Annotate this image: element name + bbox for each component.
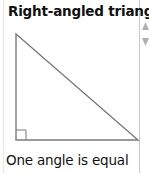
triangle-down-icon bbox=[142, 38, 149, 46]
shape-card: Right-angled triangle One angle is equal bbox=[3, 0, 140, 173]
right-triangle-figure bbox=[14, 32, 142, 142]
right-angle-marker bbox=[16, 130, 26, 140]
triangle-up-icon bbox=[142, 22, 149, 30]
card-title: Right-angled triangle bbox=[8, 3, 149, 19]
carousel-arrows[interactable] bbox=[142, 20, 149, 50]
card-caption: One angle is equal bbox=[6, 152, 128, 168]
